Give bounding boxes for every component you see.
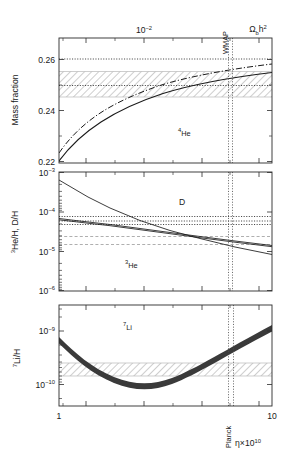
x-tick-label-10: 10 [267, 411, 277, 421]
he4-y-axis-label: Mass fraction [10, 74, 20, 125]
d-species-annotation: D [179, 197, 185, 207]
he4-base: He [181, 129, 190, 138]
d-he3-y-axis-label: 3He/H, D/H [10, 211, 21, 253]
he4-ytick-2: 0.26 [38, 55, 55, 65]
wmap-label: WMAP [221, 31, 230, 54]
he4-ytick-1: 0.24 [38, 106, 55, 116]
li7-y-axis-label: 7Li/H [12, 349, 23, 368]
bbn-abundance-figure: 0.22 0.24 0.26 Mass fraction 4He 10−2 Ωb… [0, 0, 289, 452]
planck-label: Planck [224, 426, 233, 448]
he4-ytick-0: 0.22 [38, 157, 55, 167]
x-tick-label-1: 1 [57, 411, 62, 421]
